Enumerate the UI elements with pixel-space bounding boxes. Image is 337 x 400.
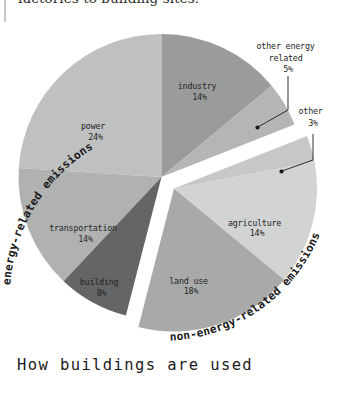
pie-slice-power[interactable] (19, 34, 162, 177)
callout-line-2: related (269, 53, 303, 63)
runover-text: factories to building sites. (18, 0, 199, 6)
slice-label-industry-value: 14% (192, 92, 207, 102)
slice-label-building-value: 8% (97, 288, 107, 298)
slice-label-power-value: 24% (88, 132, 103, 142)
slice-label-transportation-name: transportation (49, 223, 117, 233)
callout-other-line-1: other (298, 106, 322, 116)
callout-other-text: other 3% (298, 106, 327, 128)
slice-label-industry-name: industry (178, 81, 217, 91)
slice-label-power-name: power (81, 121, 105, 131)
pie-chart-svg: power 24% transportation 14% building 8%… (0, 14, 337, 344)
caption-heading: How buildings are used (17, 356, 253, 374)
runover-text-clip: factories to building sites. (0, 0, 337, 12)
slice-label-agriculture-name: agriculture (228, 218, 281, 228)
slice-label-building-name: building (80, 277, 119, 287)
pie-chart: power 24% transportation 14% building 8%… (0, 14, 337, 344)
callout-line-1: other energy (257, 41, 315, 51)
slice-label-land-use-value: 18% (184, 286, 199, 296)
callout-anchor-dot-other-energy-related (255, 125, 259, 129)
slice-label-land-use-name: land use (169, 276, 208, 286)
callout-value: 5% (283, 64, 293, 74)
callout-anchor-dot-other (279, 169, 283, 173)
slice-label-transportation-value: 14% (78, 234, 93, 244)
callout-other-value: 3% (308, 118, 318, 128)
callout-other-energy-related-text: other energy related 5% (257, 41, 320, 74)
slice-label-agriculture-value: 14% (250, 228, 265, 238)
